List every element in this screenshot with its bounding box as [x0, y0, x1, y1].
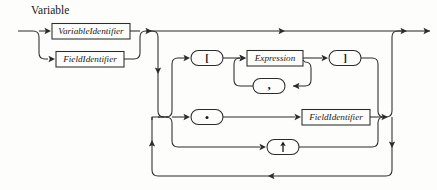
node-field-identifier-left-label: FieldIdentifier — [62, 54, 117, 64]
node-right-bracket-label: ] — [343, 51, 347, 63]
diagram-title: Variable — [31, 4, 69, 16]
node-right-bracket[interactable]: ] — [329, 51, 361, 66]
node-left-bracket[interactable]: [ — [191, 51, 223, 66]
alternatives-left-rail — [160, 58, 260, 147]
arrowhead-to-field-identifier-left — [49, 56, 56, 62]
left-distribution-rail — [152, 31, 168, 117]
node-expression[interactable]: Expression — [247, 51, 303, 67]
arrowhead-to-right-bracket — [322, 55, 329, 61]
node-variable-identifier-label: VariableIdentifier — [58, 26, 124, 36]
node-comma-label: , — [267, 77, 270, 92]
node-dot[interactable]: . — [191, 110, 223, 125]
node-field-identifier-left[interactable]: FieldIdentifier — [56, 52, 124, 68]
railroad-diagram: Variable VariableIdentifier FieldIdentif… — [0, 0, 437, 190]
right-collector-rail — [386, 31, 404, 117]
entry-rail — [18, 31, 48, 59]
node-up-arrow[interactable]: ↑ — [267, 140, 299, 155]
node-left-bracket-label: [ — [205, 51, 209, 63]
arrowhead-comma-rejoin — [240, 55, 247, 61]
node-comma[interactable]: , — [253, 77, 285, 94]
node-expression-label: Expression — [254, 53, 296, 63]
node-variable-identifier[interactable]: VariableIdentifier — [52, 24, 130, 40]
arrowhead-to-up-arrow — [260, 144, 267, 150]
node-field-identifier-right[interactable]: FieldIdentifier — [302, 110, 370, 126]
syntax-diagram-page: Variable VariableIdentifier FieldIdentif… — [0, 0, 437, 190]
branch-a-rejoin-rail — [361, 58, 386, 117]
node-field-identifier-right-label: FieldIdentifier — [308, 112, 363, 122]
arrowhead-to-field-identifier-right — [295, 114, 302, 120]
